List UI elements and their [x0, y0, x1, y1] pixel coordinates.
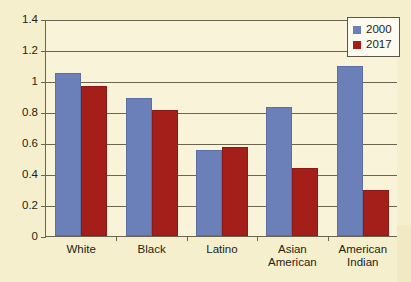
bar-2000-black [126, 98, 152, 236]
bar-2017-asian-american [292, 168, 318, 236]
legend-label-2017: 2017 [366, 39, 392, 51]
y-axis-label: 0.6 [22, 138, 38, 150]
y-axis-label: 0.8 [22, 107, 38, 119]
bar-2017-black [152, 110, 178, 236]
bar-group [196, 20, 248, 236]
x-axis-label: Asian American [268, 243, 317, 269]
bar-2017-white [81, 86, 107, 236]
bar-2017-latino [222, 147, 248, 236]
y-axis-label: 0 [32, 231, 38, 243]
legend-entry-2017: 2017 [353, 37, 392, 52]
bar-2000-american-indian [337, 66, 363, 237]
x-axis-label: Latino [206, 243, 237, 256]
y-axis-tick [41, 113, 46, 114]
legend-entry-2000: 2000 [353, 22, 392, 37]
y-axis-tick [41, 82, 46, 83]
bar-2000-white [55, 73, 81, 236]
y-axis-tick [41, 20, 46, 21]
y-axis-label: 1 [32, 76, 38, 88]
x-axis-label: American Indian [339, 243, 388, 269]
y-axis-tick [41, 206, 46, 207]
bar-2017-american-indian [363, 190, 389, 237]
x-axis-label: White [66, 243, 95, 256]
x-axis-tick [116, 236, 117, 241]
y-axis-label: 1.4 [22, 14, 38, 26]
x-axis-label: Black [138, 243, 166, 256]
y-axis-label: 0.4 [22, 169, 38, 181]
y-axis-label: 0.2 [22, 200, 38, 212]
x-axis-tick [328, 236, 329, 241]
bar-2000-asian-american [266, 107, 292, 236]
red-swatch-icon [353, 41, 361, 49]
y-axis-tick [41, 175, 46, 176]
plot-area: 00.20.40.60.811.21.4WhiteBlackLatinoAsia… [45, 20, 397, 237]
y-axis-label: 1.2 [22, 45, 38, 57]
chart-legend: 2000 2017 [347, 17, 400, 57]
bar-chart: 00.20.40.60.811.21.4WhiteBlackLatinoAsia… [0, 0, 411, 282]
page-edge-artifact [397, 225, 411, 282]
x-axis-tick [187, 236, 188, 241]
bar-2000-latino [196, 150, 222, 236]
y-axis-tick [41, 51, 46, 52]
bar-group [126, 20, 178, 236]
y-axis-tick [41, 144, 46, 145]
bar-group [266, 20, 318, 236]
blue-swatch-icon [353, 26, 361, 34]
bar-group [55, 20, 107, 236]
legend-label-2000: 2000 [366, 24, 392, 36]
x-axis-tick [257, 236, 258, 241]
y-axis-tick [41, 237, 46, 238]
